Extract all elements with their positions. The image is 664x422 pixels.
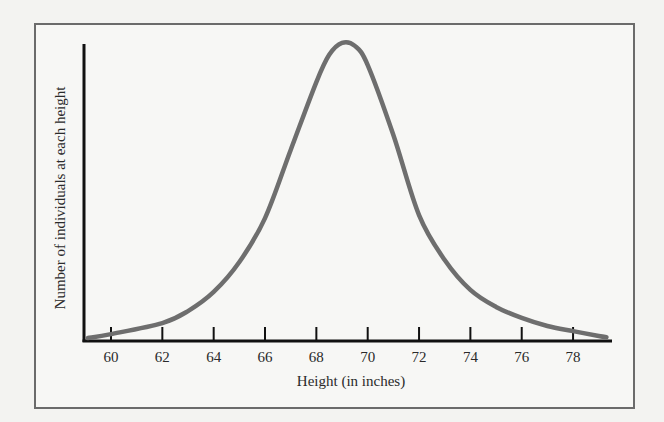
x-tick-labels: 60626466687072747678 bbox=[104, 349, 581, 365]
x-tick-label: 68 bbox=[309, 349, 324, 365]
x-tick-label: 66 bbox=[258, 349, 274, 365]
y-axis-title: Number of individuals at each height bbox=[52, 86, 68, 310]
x-axis-title: Height (in inches) bbox=[297, 373, 405, 390]
distribution-curve bbox=[88, 42, 607, 338]
axes bbox=[83, 44, 613, 342]
x-tick-label: 62 bbox=[155, 349, 170, 365]
x-tick-label: 64 bbox=[206, 349, 222, 365]
x-tick-label: 76 bbox=[514, 349, 530, 365]
x-tick-label: 70 bbox=[360, 349, 375, 365]
figure: 60626466687072747678 Height (in inches) … bbox=[0, 0, 664, 422]
bell-curve-chart: 60626466687072747678 Height (in inches) … bbox=[0, 0, 664, 422]
x-tick-label: 78 bbox=[566, 349, 581, 365]
x-tick-label: 74 bbox=[463, 349, 479, 365]
x-tick-label: 72 bbox=[412, 349, 427, 365]
x-tick-label: 60 bbox=[104, 349, 119, 365]
x-ticks bbox=[111, 327, 573, 341]
